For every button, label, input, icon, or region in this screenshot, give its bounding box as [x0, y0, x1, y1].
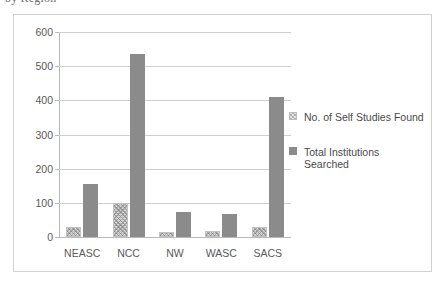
bar[interactable] [205, 231, 220, 237]
bar-group [152, 32, 198, 237]
x-axis-tick-labels: NEASCNCCNWWASCSACS [59, 247, 291, 267]
y-axis-tick-label: 500 [35, 61, 53, 71]
bar[interactable] [130, 54, 145, 237]
y-axis-tick-label: 400 [35, 95, 53, 105]
y-axis-tick-label: 200 [35, 164, 53, 174]
chart-caption-text: by Region [5, 0, 145, 5]
bar-group [198, 32, 244, 237]
chart-frame: 0100200300400500600 NEASCNCCNWWASCSACS N… [13, 14, 432, 272]
x-axis-tick-label: SACS [245, 247, 291, 259]
legend-swatch-icon [289, 147, 297, 155]
gridline [59, 237, 291, 238]
y-axis-tick [55, 237, 59, 238]
legend-item[interactable]: No. of Self Studies Found [289, 111, 429, 124]
x-axis-tick-label: WASC [198, 247, 244, 259]
bar[interactable] [269, 97, 284, 237]
legend-item-label-line2: Searched [304, 158, 429, 171]
bar-group [245, 32, 291, 237]
y-axis-tick-label: 600 [35, 27, 53, 37]
y-axis-tick-label: 300 [35, 130, 53, 140]
bar-group [59, 32, 105, 237]
x-axis-tick-label: NW [152, 247, 198, 259]
legend-item-label: Total InstitutionsSearched [304, 146, 429, 171]
plot-area: 0100200300400500600 [59, 32, 291, 237]
bar[interactable] [66, 227, 81, 237]
legend-item[interactable]: Total InstitutionsSearched [289, 146, 429, 171]
bar[interactable] [113, 203, 128, 237]
legend-item-label: No. of Self Studies Found [304, 111, 429, 124]
bars-layer [59, 32, 291, 237]
bar-group [105, 32, 151, 237]
bar[interactable] [252, 227, 267, 237]
bar[interactable] [83, 184, 98, 237]
bar[interactable] [159, 232, 174, 237]
bar[interactable] [222, 214, 237, 237]
y-axis-tick-label: 0 [47, 232, 53, 242]
x-axis-tick-label: NEASC [59, 247, 105, 259]
bar[interactable] [176, 212, 191, 237]
chart-legend: No. of Self Studies FoundTotal Instituti… [289, 111, 429, 193]
legend-swatch-icon [289, 112, 297, 120]
x-axis-tick-label: NCC [105, 247, 151, 259]
chart-caption: by Region [5, 0, 145, 5]
y-axis-tick-label: 100 [35, 198, 53, 208]
